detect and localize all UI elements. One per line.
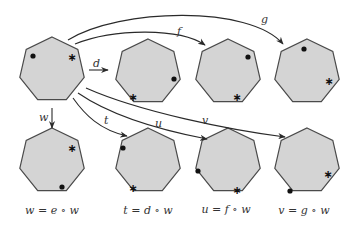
heptagon-g-star-marker: ∗ — [324, 75, 333, 88]
heptagon-v-star-marker: ∗ — [323, 168, 332, 181]
caption-u: u = f ∘ w — [201, 203, 251, 216]
label-t: t — [104, 114, 109, 127]
label-u: u — [155, 117, 162, 130]
heptagon-source-star-marker: ∗ — [67, 51, 76, 64]
heptagon-t-dot-marker — [120, 145, 125, 150]
arrow-g — [68, 15, 283, 44]
arrow-v — [86, 88, 285, 137]
heptagon-t-star-marker: ∗ — [128, 182, 137, 195]
heptagon-g-dot-marker — [301, 46, 306, 51]
arrow-t — [73, 98, 127, 136]
heptagon-d-star-marker: ∗ — [128, 91, 137, 104]
heptagon-source-dot-marker — [30, 53, 35, 58]
caption-t: t = d ∘ w — [123, 204, 173, 217]
diagram-canvas: ∗∗∗∗∗∗∗∗ g f d w t u v w = e ∘ w t = d ∘… — [0, 0, 352, 229]
heptagon-f — [196, 39, 260, 102]
heptagon-f-dot-marker — [245, 54, 250, 59]
caption-v: v = g ∘ w — [278, 204, 330, 217]
heptagon-d-dot-marker — [171, 76, 176, 81]
heptagon-f-star-marker: ∗ — [232, 91, 241, 104]
heptagon-g — [275, 39, 339, 102]
label-v: v — [202, 114, 209, 127]
heptagon-d — [116, 39, 180, 102]
heptagon-u-star-marker: ∗ — [232, 184, 241, 197]
heptagon-v-dot-marker — [287, 188, 292, 193]
heptagon-source — [20, 37, 84, 100]
heptagon-u — [196, 128, 260, 191]
label-d: d — [93, 57, 100, 70]
label-g: g — [261, 13, 268, 26]
heptagon-w-dot-marker — [59, 184, 64, 189]
caption-w: w = e ∘ w — [25, 204, 80, 217]
label-w: w — [39, 111, 49, 124]
heptagon-w — [20, 128, 84, 191]
heptagon-u-dot-marker — [195, 168, 200, 173]
heptagon-t — [116, 128, 180, 191]
heptagon-w-star-marker: ∗ — [67, 142, 76, 155]
